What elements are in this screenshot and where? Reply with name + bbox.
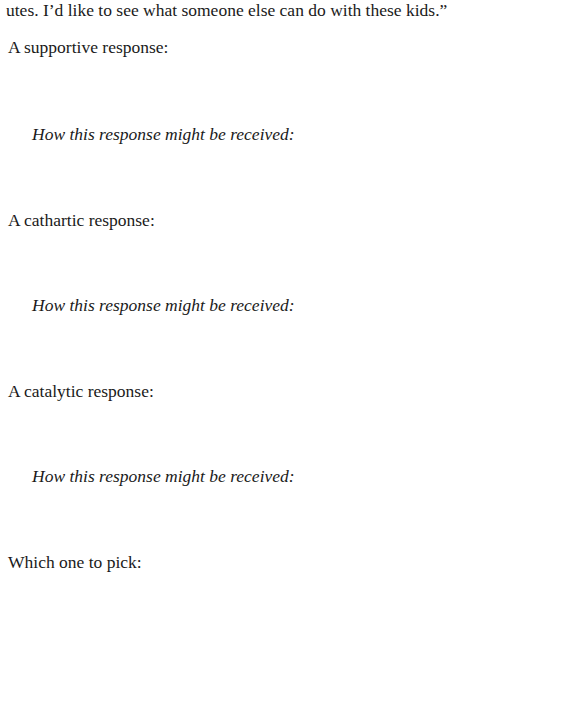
supportive-reception-label: How this response might be received: [32, 124, 295, 144]
supportive-response-prompt: A supportive response: [8, 37, 168, 57]
catalytic-response-prompt: A catalytic response: [8, 381, 154, 401]
catalytic-reception-label: How this response might be received: [32, 466, 295, 486]
cathartic-reception-label: How this response might be received: [32, 295, 295, 315]
quote-continuation: utes. I’d like to see what someone else … [6, 0, 447, 20]
which-one-prompt: Which one to pick: [8, 552, 142, 572]
cathartic-response-prompt: A cathartic response: [8, 210, 155, 230]
